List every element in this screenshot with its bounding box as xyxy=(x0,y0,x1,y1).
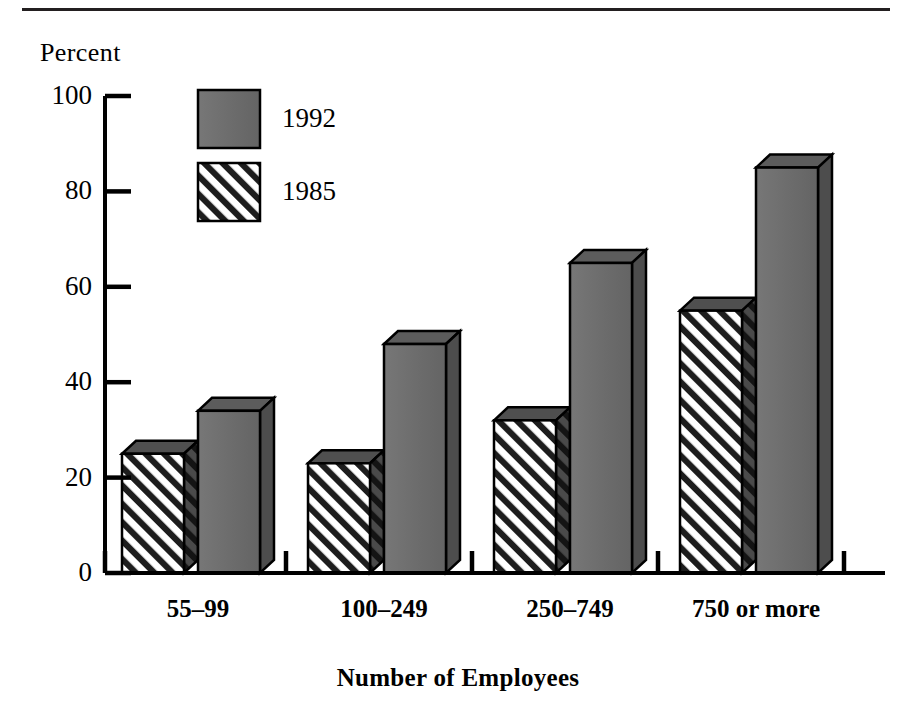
bar-1985-750 or more xyxy=(680,298,756,573)
bar-front-face xyxy=(308,463,370,573)
bar-side-face xyxy=(370,450,384,573)
x-axis-title: Number of Employees xyxy=(0,664,916,692)
bar-side-face xyxy=(632,250,646,573)
y-tick-label: 20 xyxy=(22,464,92,491)
bar-1992-250–749 xyxy=(570,250,646,573)
legend-label-1985: 1985 xyxy=(282,178,336,205)
bar-front-face xyxy=(494,420,556,573)
bar-side-face xyxy=(818,155,832,573)
y-tick-label: 60 xyxy=(22,273,92,300)
bar-front-face xyxy=(198,411,260,573)
bar-chart-figure: Percent 020406080100 55–99100–2 xyxy=(0,0,916,712)
bar-front-face xyxy=(570,263,632,573)
bar-1992-55–99 xyxy=(198,398,274,573)
y-tick-label: 0 xyxy=(22,559,92,586)
bar-front-face xyxy=(384,344,446,573)
bar-side-face xyxy=(556,407,570,573)
legend-label-1992: 1992 xyxy=(282,105,336,132)
bar-side-face xyxy=(742,298,756,573)
bar-1985-55–99 xyxy=(122,441,198,573)
bar-front-face xyxy=(122,454,184,573)
legend-swatches xyxy=(198,90,260,221)
bar-front-face xyxy=(680,311,742,573)
y-tick-label: 100 xyxy=(22,82,92,109)
bar-1985-100–249 xyxy=(308,450,384,573)
bar-1992-100–249 xyxy=(384,331,460,573)
bar-side-face xyxy=(446,331,460,573)
y-tick-label: 80 xyxy=(22,177,92,204)
legend-swatch-1992 xyxy=(198,90,260,148)
bar-front-face xyxy=(756,168,818,573)
bar-side-face xyxy=(260,398,274,573)
y-tick-label: 40 xyxy=(22,368,92,395)
bar-1992-750 or more xyxy=(756,155,832,573)
bar-side-face xyxy=(184,441,198,573)
legend-swatch-1985 xyxy=(198,163,260,221)
x-tick-label: 750 or more xyxy=(626,596,886,621)
bar-1985-250–749 xyxy=(494,407,570,573)
